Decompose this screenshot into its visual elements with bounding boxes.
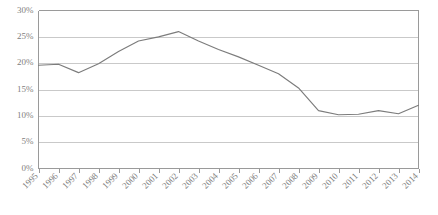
- y-axis-tick-label: 10%: [17, 110, 34, 120]
- y-axis-tick-label: 5%: [22, 136, 35, 146]
- line-chart: 0%5%10%15%20%25%30% 19951996199719981999…: [0, 0, 438, 215]
- y-axis-tick-label: 30%: [17, 5, 34, 15]
- y-axis-tick-label: 25%: [17, 31, 34, 41]
- y-axis-tick-label: 15%: [17, 84, 34, 94]
- chart-canvas: 0%5%10%15%20%25%30% 19951996199719981999…: [0, 0, 438, 215]
- y-axis-tick-label: 20%: [17, 57, 34, 67]
